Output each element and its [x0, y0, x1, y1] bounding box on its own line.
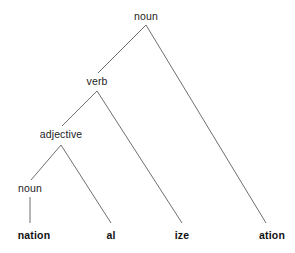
- leaf-ation: ation: [259, 230, 285, 241]
- edge-adjective-to-al: [61, 145, 111, 223]
- leaf-ize: ize: [175, 230, 190, 241]
- edge-verb-to-ize: [97, 91, 182, 223]
- leaf-nation: nation: [18, 230, 51, 241]
- tree-branches: [0, 0, 295, 253]
- edge-root-noun-to-ation: [146, 25, 266, 223]
- leaf-al: al: [106, 230, 115, 241]
- node-root-noun: noun: [134, 11, 158, 22]
- edge-verb-to-adjective: [62, 91, 97, 126]
- edge-adjective-to-noun: [31, 145, 61, 180]
- node-noun-stem: noun: [18, 183, 42, 194]
- edge-root-noun-to-verb: [98, 25, 146, 73]
- derivation-tree-figure: noun verb adjective noun nation al ize a…: [0, 0, 295, 253]
- node-adjective: adjective: [40, 129, 82, 140]
- node-verb: verb: [87, 76, 108, 87]
